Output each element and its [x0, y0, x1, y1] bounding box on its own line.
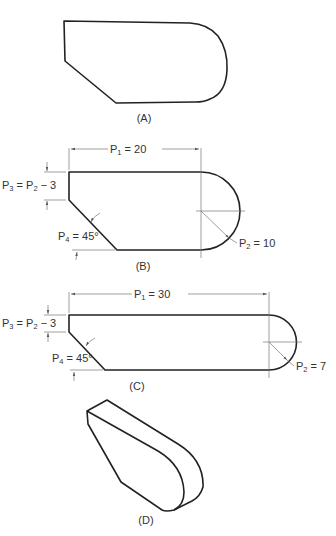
caption-b: (B): [136, 260, 151, 272]
dim-p4-c: P4 = 45°: [52, 352, 93, 366]
parametric-figure: (A) P1 = 20 P3 = P2 − 3 P4 = 45°: [0, 0, 336, 536]
dim-p2-c: P2 = 7: [296, 360, 326, 374]
dim-p3-c: P3 = P2 − 3: [2, 317, 56, 331]
sketch-outline: [64, 21, 227, 103]
caption-a: (A): [137, 112, 152, 124]
profile-c: [69, 315, 296, 370]
panel-d: (D): [87, 400, 203, 526]
panel-a: (A): [64, 21, 227, 124]
dim-p3-b: P3 = P2 − 3: [2, 179, 56, 193]
panel-b: P1 = 20 P3 = P2 − 3 P4 = 45° P2 = 10 (B): [2, 143, 275, 272]
dim-p4-b: P4 = 45°: [58, 230, 99, 244]
panel-c: P1 = 30 P3 = P2 − 3 P4 = 45° P2 = 7 (C): [2, 288, 326, 392]
dim-p1-c: P1 = 30: [134, 288, 170, 302]
dim-p1-b: P1 = 20: [110, 143, 146, 157]
dim-p2-b: P2 = 10: [239, 237, 275, 251]
isometric-solid: [87, 400, 203, 510]
caption-c: (C): [129, 380, 144, 392]
caption-d: (D): [138, 514, 153, 526]
